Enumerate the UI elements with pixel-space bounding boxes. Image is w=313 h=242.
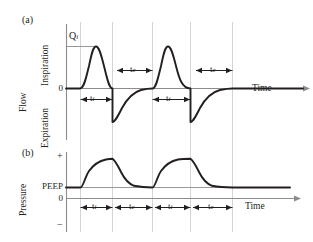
flow-ti-span-1-arrow-right bbox=[106, 97, 112, 103]
flow-te-label-2: te bbox=[210, 64, 216, 74]
pressure-te-span-1-arrow-left bbox=[115, 205, 121, 211]
pressure-ti-subscript-1: i bbox=[95, 203, 97, 211]
pressure-tick-peep: PEEP bbox=[26, 181, 63, 191]
pressure-ti-span-1-arrow-left bbox=[81, 205, 87, 211]
flow-tick-zero: 0 bbox=[52, 83, 63, 93]
pressure-ti-span-2-arrow-right bbox=[184, 205, 190, 211]
pressure-te-subscript-2: e bbox=[211, 203, 214, 211]
flow-tick-expiration: Expiration bbox=[40, 108, 50, 148]
flow-te-subscript-2: e bbox=[213, 66, 216, 74]
flow-ti-subscript-1: i bbox=[93, 95, 95, 103]
flow-ti-span-2-arrow-right bbox=[184, 97, 190, 103]
pressure-ti-span-1-arrow-right bbox=[106, 205, 112, 211]
flow-te-span-2-arrow-left bbox=[196, 68, 202, 74]
peak-flow-subscript: i bbox=[76, 33, 78, 41]
panel-a-tag: (a) bbox=[22, 14, 33, 25]
flow-time-axis-label: Time bbox=[252, 83, 272, 93]
flow-x-axis-arrowhead bbox=[303, 86, 310, 92]
flow-te-subscript-1: e bbox=[133, 66, 136, 74]
flow-ti-label-1: ti bbox=[90, 93, 94, 103]
flow-te-span-1-arrow-left bbox=[117, 68, 123, 74]
pressure-ti-label-2: ti bbox=[168, 201, 172, 211]
pressure-x-axis-arrowhead bbox=[294, 196, 301, 202]
pressure-time-axis-label: Time bbox=[245, 201, 265, 211]
pressure-te-subscript-1: e bbox=[132, 203, 135, 211]
pressure-waveform bbox=[66, 159, 290, 188]
flow-te-span-2-arrow-right bbox=[226, 68, 232, 74]
pressure-te-label-1: te bbox=[129, 201, 135, 211]
pressure-tick-zero: 0 bbox=[52, 193, 63, 203]
flow-tick-inspiration: Inspiration bbox=[40, 45, 50, 86]
flow-ti-span-2-arrow-left bbox=[153, 97, 159, 103]
pressure-te-span-2-arrow-right bbox=[226, 205, 232, 211]
flow-ti-subscript-2: i bbox=[169, 95, 171, 103]
panel-b-pressure bbox=[66, 152, 301, 232]
panel-a-flow bbox=[66, 24, 310, 140]
pressure-ti-label-1: ti bbox=[92, 201, 96, 211]
pressure-tick-plus: + bbox=[57, 150, 63, 161]
flow-te-label-1: te bbox=[130, 64, 136, 74]
flow-te-span-1-arrow-right bbox=[146, 68, 152, 74]
flow-ti-label-2: ti bbox=[166, 93, 170, 103]
pressure-te-span-2-arrow-left bbox=[193, 205, 199, 211]
pressure-te-label-2: te bbox=[208, 201, 214, 211]
peak-inspiratory-flow-label: Qi bbox=[69, 30, 78, 41]
flow-ti-span-1-arrow-left bbox=[81, 97, 87, 103]
ventilation-waveform-figure: (a) (b) Flow Inspiration 0 Expiration Ti… bbox=[0, 0, 313, 242]
pressure-tick-minus: − bbox=[57, 219, 63, 230]
pressure-te-span-1-arrow-right bbox=[146, 205, 152, 211]
pressure-ti-span-2-arrow-left bbox=[155, 205, 161, 211]
flow-axis-title: Flow bbox=[18, 92, 28, 112]
pressure-ti-subscript-2: i bbox=[171, 203, 173, 211]
panel-b-tag: (b) bbox=[22, 147, 34, 158]
